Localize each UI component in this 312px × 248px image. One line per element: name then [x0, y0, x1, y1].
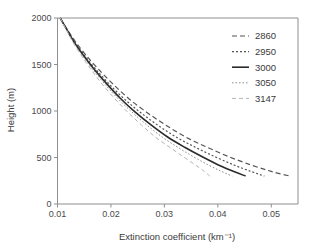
- y-tick-label: 1500: [31, 60, 51, 70]
- y-tick-label: 0: [46, 199, 51, 209]
- x-tick-label: 0.03: [156, 209, 174, 219]
- chart-legend: 28602950300030503147: [232, 30, 276, 103]
- legend-label-3147: 3147: [255, 93, 276, 104]
- series-line-2950: [60, 18, 264, 176]
- legend-label-3050: 3050: [255, 77, 276, 88]
- chart-canvas: 05001000150020000.010.020.030.040.05 286…: [0, 0, 312, 248]
- y-axis-title: Height (m): [5, 88, 16, 132]
- x-tick-label: 0.02: [102, 209, 120, 219]
- series-line-3147: [60, 18, 210, 176]
- y-tick-label: 1000: [31, 106, 51, 116]
- legend-label-2860: 2860: [255, 30, 276, 41]
- x-tick-label: 0.01: [49, 209, 67, 219]
- legend-label-2950: 2950: [255, 46, 276, 57]
- x-tick-label: 0.05: [263, 209, 281, 219]
- series-line-3050: [60, 18, 232, 176]
- y-tick-label: 2000: [31, 13, 51, 23]
- x-axis-title: Extinction coefficient (km⁻¹): [119, 231, 235, 242]
- y-tick-label: 500: [36, 153, 51, 163]
- legend-label-3000: 3000: [255, 62, 276, 73]
- x-tick-label: 0.04: [209, 209, 227, 219]
- chart-figure: 05001000150020000.010.020.030.040.05 286…: [0, 0, 312, 248]
- tick-labels: 05001000150020000.010.020.030.040.05: [31, 13, 280, 219]
